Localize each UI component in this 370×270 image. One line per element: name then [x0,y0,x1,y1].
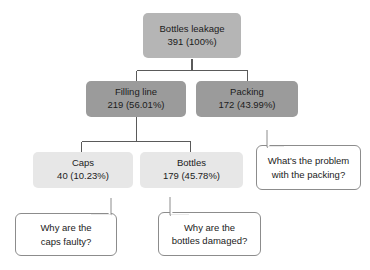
node-label: Filling line [115,86,157,99]
node-bottles[interactable]: Bottles 179 (45.78%) [140,152,243,188]
callout-line-2: bottles damaged? [172,234,248,247]
node-filling-line[interactable]: Filling line 219 (56.01%) [86,81,186,117]
node-label: Packing [230,86,264,99]
callout-line-2: caps faulty? [41,235,92,248]
node-label: Bottles leakage [160,23,225,36]
node-value: 179 (45.78%) [163,170,220,183]
node-bottles-leakage[interactable]: Bottles leakage 391 (100%) [143,13,241,58]
callout-bottles[interactable]: Why are the bottles damaged? [158,212,261,256]
node-label: Caps [72,157,94,170]
node-caps[interactable]: Caps 40 (10.23%) [33,152,133,188]
node-value: 391 (100%) [167,36,216,49]
node-value: 172 (43.99%) [218,99,275,112]
diagram-canvas: Bottles leakage 391 (100%) Filling line … [0,0,370,270]
callout-line-2: with the packing? [272,168,345,181]
callout-caps[interactable]: Why are the caps faulty? [15,213,117,256]
callout-line-1: Why are the [184,221,235,234]
callout-packing[interactable]: What's the problem with the packing? [256,145,361,190]
node-label: Bottles [177,157,206,170]
node-packing[interactable]: Packing 172 (43.99%) [196,81,298,117]
node-value: 40 (10.23%) [57,170,109,183]
callout-line-1: Why are the [40,221,91,234]
callout-line-1: What's the problem [268,154,350,167]
node-value: 219 (56.01%) [107,99,164,112]
